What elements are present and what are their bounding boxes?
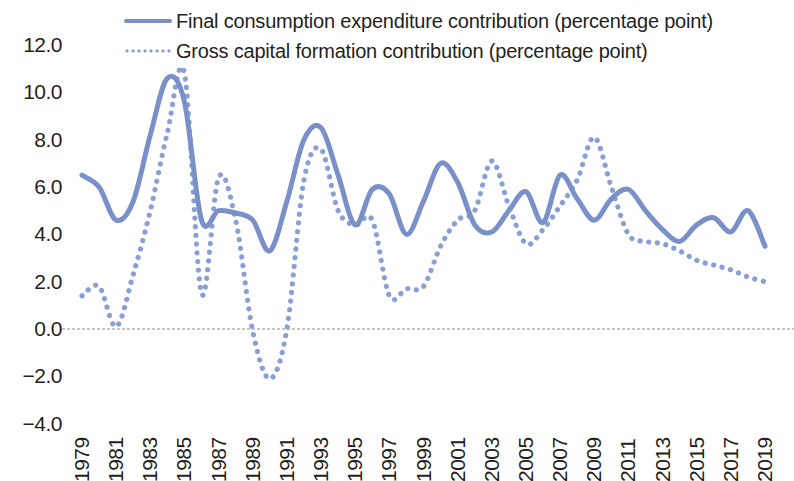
x-axis-tick-label: 1995	[345, 422, 365, 481]
x-axis-tick-label: 1979	[72, 422, 92, 481]
x-axis-tick-label: 2003	[482, 422, 502, 481]
x-axis-tick-label: 2011	[618, 422, 638, 481]
x-axis-tick-label: 1999	[414, 422, 434, 481]
x-axis-tick-label: 1981	[106, 422, 126, 481]
x-axis-tick-label: 1991	[277, 422, 297, 481]
x-axis-tick-label: 2007	[550, 422, 570, 481]
x-axis-tick-label: 2015	[687, 422, 707, 481]
y-axis-tick-label: 8.0	[0, 129, 62, 150]
x-axis-tick-label: 2005	[516, 422, 536, 481]
y-axis-tick-label: 12.0	[0, 34, 62, 55]
x-axis-tick-label: 2013	[653, 422, 673, 481]
y-axis-tick-label: 4.0	[0, 223, 62, 244]
plot-svg	[62, 20, 794, 420]
y-axis-tick-label: 2.0	[0, 271, 62, 292]
plot-area	[62, 20, 794, 420]
x-axis-tick-label: 2009	[584, 422, 604, 481]
y-axis-tick-label: 0.0	[0, 318, 62, 339]
x-axis-tick-label: 2019	[755, 422, 775, 481]
chart-figure: Final consumption expenditure contributi…	[0, 0, 794, 481]
y-axis-tick-label: 6.0	[0, 176, 62, 197]
x-axis-tick-label: 1987	[209, 422, 229, 481]
y-axis-tick-label: −2.0	[0, 365, 62, 386]
x-axis-tick-label: 1985	[174, 422, 194, 481]
y-axis: 12.010.08.06.04.02.00.0−2.0−4.0	[0, 0, 62, 481]
x-axis-tick-label: 2017	[721, 422, 741, 481]
y-axis-tick-label: 10.0	[0, 81, 62, 102]
x-axis-tick-label: 1997	[379, 422, 399, 481]
x-axis-tick-label: 2001	[448, 422, 468, 481]
series-line-final-consumption	[82, 76, 765, 251]
x-axis-tick-label: 1993	[311, 422, 331, 481]
x-axis: 1979198119831985198719891991199319951997…	[0, 424, 794, 481]
x-axis-tick-label: 1983	[140, 422, 160, 481]
x-axis-tick-label: 1989	[243, 422, 263, 481]
